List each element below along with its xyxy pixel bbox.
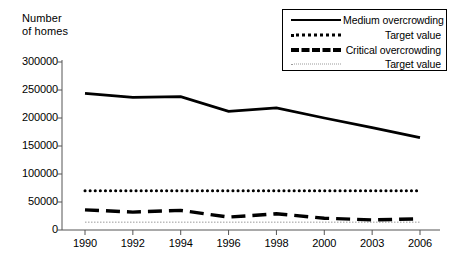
legend-item-critical-overcrowding: Critical overcrowding xyxy=(283,42,446,57)
solid-line-icon xyxy=(289,13,343,27)
x-axis-ticks xyxy=(85,230,420,235)
fine-dotted-line-icon xyxy=(289,57,343,71)
legend-item-target-value-medium: Target value xyxy=(283,27,446,42)
y-axis-ticks xyxy=(57,62,62,230)
chart-legend: Medium overcrowding Target value Critica… xyxy=(282,9,447,71)
legend-item-medium-overcrowding: Medium overcrowding xyxy=(283,12,446,27)
series-medium-overcrowding xyxy=(85,93,420,137)
legend-item-label: Target value xyxy=(343,29,446,41)
legend-item-label: Target value xyxy=(343,58,446,70)
dotted-line-icon xyxy=(289,28,343,42)
chart-container: Number of homes 300000 250000 200000 150… xyxy=(0,0,449,262)
legend-item-target-value-critical: Target value xyxy=(283,56,446,71)
legend-item-label: Critical overcrowding xyxy=(343,44,446,56)
dashed-line-icon xyxy=(289,43,343,57)
series-critical-overcrowding xyxy=(85,210,420,220)
legend-item-label: Medium overcrowding xyxy=(343,14,449,26)
